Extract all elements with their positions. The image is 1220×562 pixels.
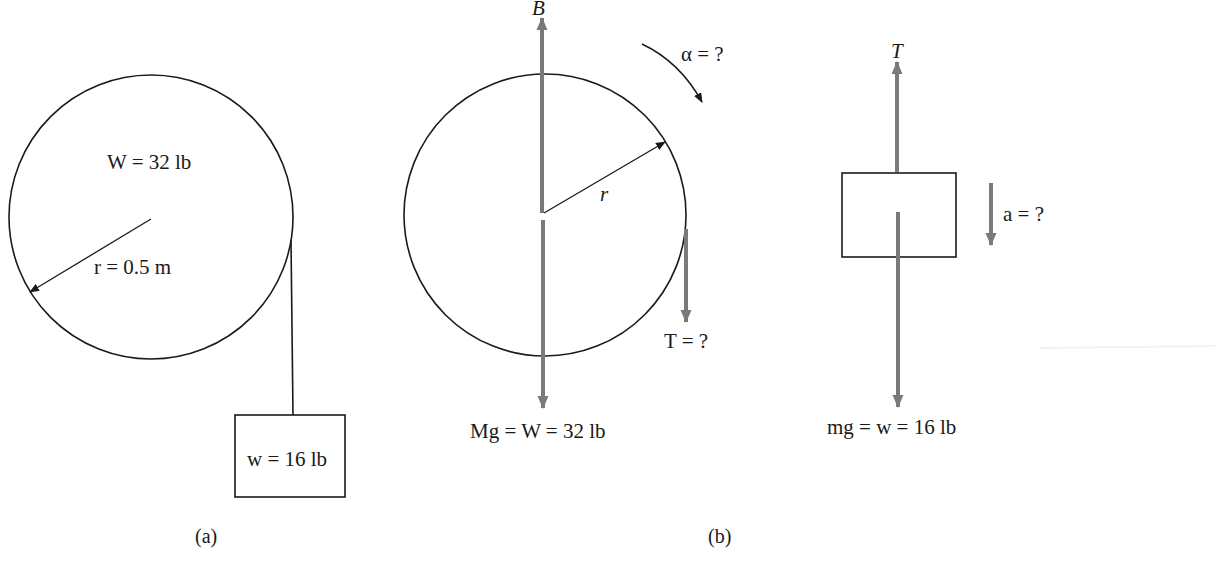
block-weight-label: w = 16 lb	[247, 449, 327, 470]
pulley-fbd	[404, 18, 702, 408]
block-fbd	[842, 62, 991, 407]
pulley-weight-force-label: Mg = W = 32 lb	[470, 421, 606, 442]
angular-accel-label: α = ?	[681, 44, 724, 65]
pulley-tension-label: T = ?	[664, 331, 708, 352]
caption-b: (b)	[708, 526, 731, 546]
support-force-label: B	[532, 0, 545, 19]
radius-label-fbd: r	[600, 184, 608, 205]
pulley-radius-label: r = 0.5 m	[94, 257, 171, 278]
pulley-weight-label: W = 32 lb	[107, 152, 191, 173]
physics-figure: W = 32 lb r = 0.5 m w = 16 lb (a) B α = …	[0, 0, 1220, 562]
block-accel-label: a = ?	[1003, 204, 1044, 225]
block-tension-label: T	[891, 41, 903, 62]
block-weight-force-label: mg = w = 16 lb	[827, 417, 956, 438]
rope	[291, 240, 293, 415]
caption-a: (a)	[195, 526, 217, 546]
scan-artifact	[1040, 346, 1215, 348]
pulley-disk	[9, 75, 293, 359]
panel-a	[9, 75, 345, 497]
